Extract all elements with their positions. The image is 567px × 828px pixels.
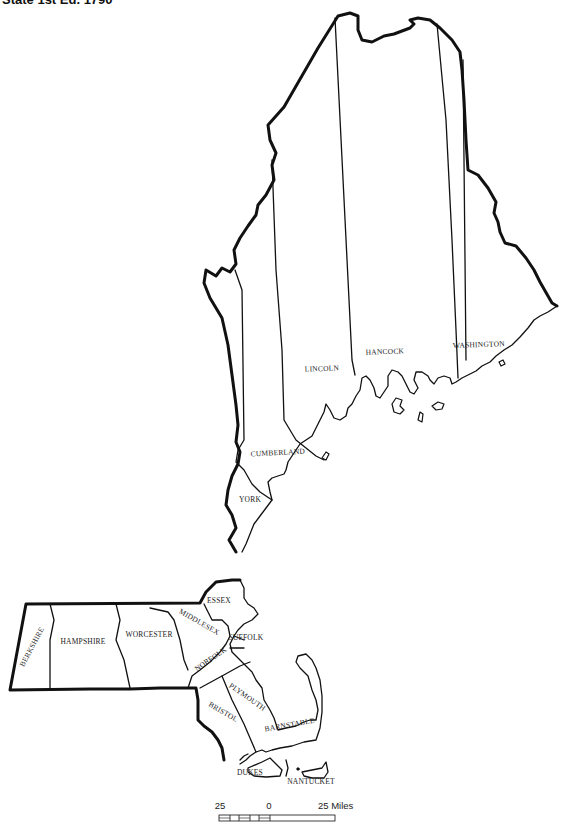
island (392, 398, 404, 414)
county-label-washington: WASHINGTON (453, 339, 506, 350)
maine-boundary (204, 13, 557, 552)
county-label-hancock: HANCOCK (366, 346, 405, 356)
county-line (235, 270, 272, 500)
county-label-dukes: DUKES (237, 768, 263, 777)
county-label-suffolk: SUFFOLK (229, 633, 264, 642)
county-line (272, 160, 324, 460)
county-line (150, 608, 188, 670)
scale-label-right: 25 Miles (318, 800, 354, 811)
maine-county-labels: WASHINGTON HANCOCK LINCOLN CUMBERLAND YO… (239, 339, 505, 504)
county-line (335, 18, 355, 375)
island-nantucket (302, 762, 328, 778)
maine-district (204, 13, 557, 552)
island (432, 402, 444, 410)
county-line (116, 604, 130, 688)
county-label-essex: ESSEX (207, 596, 231, 605)
county-label-lincoln: LINCOLN (305, 363, 340, 373)
county-label-middlesex: MIDDLESEX (177, 607, 221, 638)
county-label-nantucket: NANTUCKET (287, 777, 335, 786)
island (499, 360, 505, 366)
county-line (50, 604, 54, 688)
scale-label-mid: 0 (266, 800, 271, 811)
island-tuckernuck (297, 768, 299, 770)
scale-label-left: 25 (215, 800, 226, 811)
county-label-york: YORK (239, 495, 261, 504)
massachusetts-coast (230, 580, 322, 764)
massachusetts-county-labels: ESSEX MIDDLESEX SUFFOLK BERKSHIRE HAMPSH… (18, 596, 335, 786)
county-label-bristol: BRISTOL (207, 700, 240, 724)
island-chappaquiddick (286, 760, 288, 776)
county-label-barnstable: BARNSTABLE (264, 716, 316, 734)
county-label-norfolk: NORFOLK (193, 644, 229, 673)
county-line (437, 24, 458, 378)
county-label-worcester: WORCESTER (125, 630, 172, 639)
county-label-hampshire: HAMPSHIRE (60, 637, 105, 646)
scale-bar: 25 0 25 Miles (215, 800, 354, 821)
county-label-plymouth: PLYMOUTH (227, 681, 267, 713)
massachusetts (10, 580, 328, 778)
county-map: WASHINGTON HANCOCK LINCOLN CUMBERLAND YO… (0, 0, 567, 828)
county-label-cumberland: CUMBERLAND (250, 447, 305, 459)
island (418, 412, 423, 422)
